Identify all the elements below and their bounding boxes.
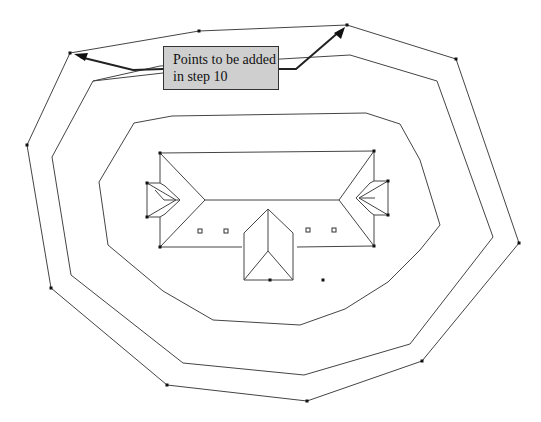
vertex-point xyxy=(387,214,390,217)
vertex-point xyxy=(322,279,325,282)
vent-icon xyxy=(306,228,310,232)
vertex-point xyxy=(421,360,424,363)
vent-icon xyxy=(224,229,228,233)
vertex-point xyxy=(269,279,272,282)
vertex-point xyxy=(387,180,390,183)
house-roof-plan xyxy=(147,151,388,280)
vertex-point xyxy=(373,245,376,248)
middle-contour xyxy=(52,55,493,375)
vertex-point xyxy=(159,246,162,249)
vertex-point xyxy=(146,182,149,185)
vertex-point xyxy=(69,52,72,55)
arrow-right-icon xyxy=(334,27,345,39)
vertex-point xyxy=(373,150,376,153)
vertex-point xyxy=(306,400,309,403)
vent-icon xyxy=(198,229,202,233)
callout-line-1: Points to be added xyxy=(173,51,278,68)
vertex-point xyxy=(159,152,162,155)
vertex-point xyxy=(518,242,521,245)
vertex-point xyxy=(26,144,29,147)
vertex-point xyxy=(50,287,53,290)
callout-line-2: in step 10 xyxy=(173,68,278,85)
arrow-left-icon xyxy=(74,53,88,61)
vent-markers xyxy=(198,228,336,233)
vertex-point xyxy=(198,30,201,33)
vertex-point xyxy=(346,24,349,27)
vent-icon xyxy=(332,228,336,232)
inner-contour xyxy=(99,113,440,325)
callout-box: Points to be added in step 10 xyxy=(163,46,279,90)
vertex-point xyxy=(166,384,169,387)
vertex-point xyxy=(455,58,458,61)
vertex-point xyxy=(146,216,149,219)
